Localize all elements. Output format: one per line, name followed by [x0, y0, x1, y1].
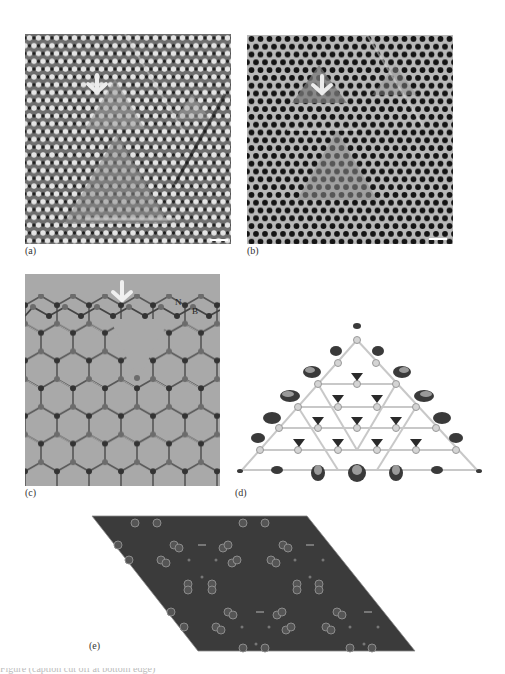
- panel-d-charge-density: [232, 320, 487, 485]
- panel-label-d: (d): [235, 487, 247, 498]
- panel-c-lattice: N B: [25, 274, 220, 486]
- panel-e-simulated-image: [88, 514, 418, 654]
- panel-label-e: (e): [89, 640, 100, 651]
- panel-label-b: (b): [247, 245, 259, 256]
- panel-b-filtered-image: [247, 35, 453, 244]
- panel-e-rhombus: [88, 514, 418, 654]
- panel-label-a: (a): [25, 245, 36, 256]
- atom-label-b: B: [192, 306, 198, 316]
- panel-c-atomic-model: N B: [25, 274, 220, 486]
- panel-b-image: [247, 35, 453, 244]
- figure-caption-cropped: Figure (caption cut off at bottom edge): [0, 668, 505, 674]
- caption-text: Figure (caption cut off at bottom edge): [0, 668, 505, 674]
- panel-label-c: (c): [25, 487, 36, 498]
- panel-a-tem-image: [25, 34, 231, 244]
- atom-label-n: N: [175, 297, 182, 307]
- panel-a-image: [25, 34, 231, 244]
- panel-d-triangle: [232, 320, 487, 485]
